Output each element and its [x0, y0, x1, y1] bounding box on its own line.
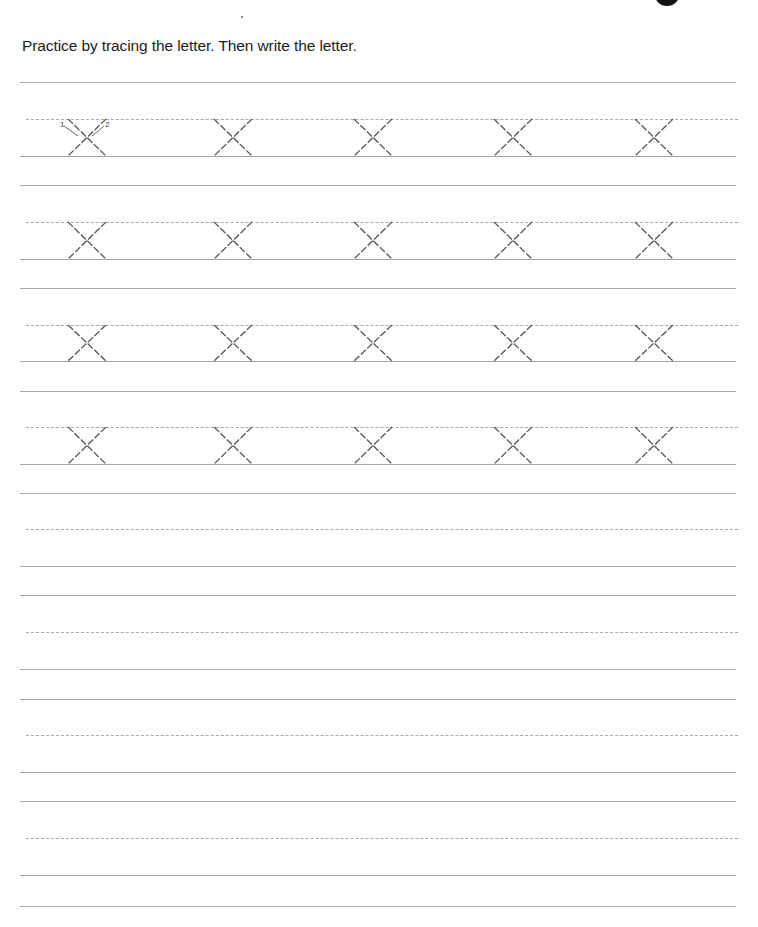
- trace-letter-x: [635, 222, 673, 259]
- trace-letter-x: [354, 119, 392, 156]
- trace-letter-x: [68, 119, 106, 156]
- trace-letter-x: [354, 222, 392, 259]
- trace-letter-x: [354, 325, 392, 361]
- trace-letter-x: [214, 119, 252, 156]
- trace-letter-x: [214, 427, 252, 464]
- trace-letter-x: [68, 222, 106, 259]
- trace-letter-x: [354, 427, 392, 464]
- trace-letter-x: [494, 325, 532, 361]
- trace-letter-x: [68, 325, 106, 361]
- trace-letter-x: [494, 427, 532, 464]
- trace-letter-x: [68, 427, 106, 464]
- trace-letter-x: [494, 119, 532, 156]
- trace-letter-x: [494, 222, 532, 259]
- trace-letter-x: [635, 325, 673, 361]
- trace-letter-x: [635, 427, 673, 464]
- trace-letter-x: [635, 119, 673, 156]
- trace-letter-x: [214, 222, 252, 259]
- trace-letter-x: [214, 325, 252, 361]
- stroke-number: 1: [60, 120, 65, 129]
- stroke-number: 2: [105, 120, 110, 129]
- letter-trace-grid: 12: [0, 0, 758, 927]
